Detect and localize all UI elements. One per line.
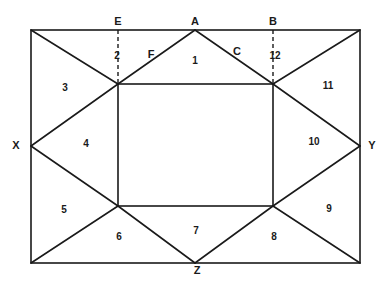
- label-Z: Z: [194, 264, 201, 276]
- diag-bottom-right: [273, 206, 360, 263]
- line-X-top: [31, 84, 118, 146]
- region-10: 10: [308, 136, 320, 147]
- region-7: 7: [193, 225, 199, 236]
- region-9: 9: [326, 203, 332, 214]
- region-8: 8: [271, 231, 277, 242]
- diag-top-right: [273, 30, 360, 84]
- label-A: A: [191, 15, 199, 27]
- region-2: 2: [114, 50, 120, 61]
- region-5: 5: [61, 204, 67, 215]
- line-Z-left: [118, 206, 195, 263]
- region-4: 4: [83, 138, 89, 149]
- label-E: E: [114, 15, 121, 27]
- region-12: 12: [269, 50, 281, 61]
- diag-top-left: [31, 30, 118, 84]
- inner-rectangle: [118, 84, 273, 206]
- region-6: 6: [116, 231, 122, 242]
- line-X-bottom: [31, 146, 118, 206]
- label-F: F: [148, 48, 155, 60]
- line-A-C: [195, 30, 273, 84]
- line-A-F: [118, 30, 195, 84]
- folding-diagram: E A B X Y Z F C 1 2 3 4 5 6 7 8 9 10 11 …: [0, 0, 387, 287]
- label-Y: Y: [368, 139, 376, 151]
- label-B: B: [269, 15, 277, 27]
- region-11: 11: [323, 80, 334, 91]
- diag-bottom-left: [31, 206, 118, 263]
- line-Y-bottom: [273, 146, 360, 206]
- line-Z-right: [195, 206, 273, 263]
- label-C: C: [233, 45, 241, 57]
- region-3: 3: [62, 82, 68, 93]
- region-1: 1: [192, 55, 198, 66]
- label-X: X: [12, 139, 20, 151]
